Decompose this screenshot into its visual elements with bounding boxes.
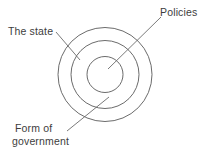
outer-ring-the-state bbox=[58, 28, 152, 122]
concentric-circles-diagram: The state Policies Form of government bbox=[0, 0, 206, 161]
leader-line-policies bbox=[108, 17, 161, 69]
label-form-of-government: Form of government bbox=[12, 122, 92, 147]
middle-ring-form-of-government bbox=[71, 41, 139, 109]
label-the-state: The state bbox=[8, 25, 53, 38]
label-form-of-government-line-1: Form of bbox=[12, 122, 92, 135]
inner-ring-policies bbox=[87, 57, 123, 93]
leader-line-the-state bbox=[56, 32, 80, 60]
label-form-of-government-line-2: government bbox=[12, 135, 92, 148]
label-policies: Policies bbox=[160, 6, 197, 19]
